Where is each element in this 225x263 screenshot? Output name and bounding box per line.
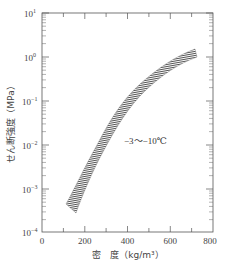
svg-text:10−3: 10−3 — [22, 184, 37, 195]
svg-text:400: 400 — [121, 236, 135, 246]
x-ticks — [63, 13, 191, 232]
plot-frame — [42, 13, 213, 232]
x-axis-title: 密 度（kg/m³） — [92, 249, 163, 260]
y-axis-title: せん断強度（MPa） — [5, 81, 16, 162]
svg-text:10−1: 10−1 — [22, 96, 37, 107]
strength-band — [66, 49, 197, 213]
chart-canvas: 101 100 10−1 10−2 10−3 10−4 0 200 400 60… — [0, 0, 225, 263]
svg-text:0: 0 — [40, 236, 45, 246]
y-tick-labels: 101 100 10−1 10−2 10−3 10−4 — [22, 8, 37, 238]
svg-text:10−2: 10−2 — [22, 140, 37, 151]
svg-text:200: 200 — [78, 236, 92, 246]
svg-text:600: 600 — [164, 236, 178, 246]
y-minor-ticks — [42, 15, 213, 220]
x-tick-labels: 0 200 400 600 800 — [40, 236, 218, 246]
temperature-annotation: −3～−10℃ — [124, 136, 167, 146]
svg-text:101: 101 — [24, 8, 36, 19]
svg-text:800: 800 — [203, 236, 217, 246]
svg-text:100: 100 — [24, 52, 36, 63]
svg-text:10−4: 10−4 — [22, 227, 37, 238]
